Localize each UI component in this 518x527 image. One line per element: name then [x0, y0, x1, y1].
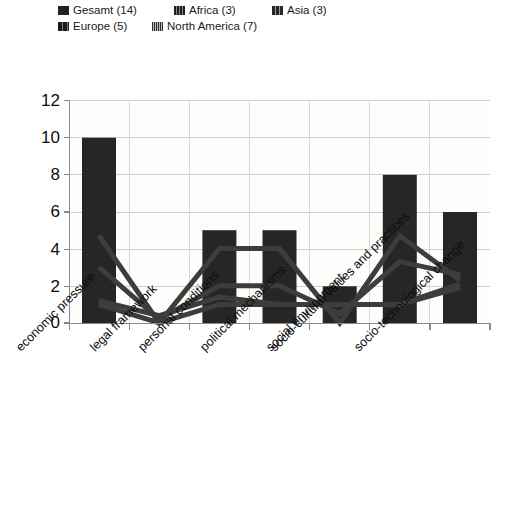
bar-economic-pressure [82, 138, 116, 323]
chart-canvas: 12 10 8 6 4 2 0 [0, 0, 518, 527]
bar-socio-technological-change [443, 212, 477, 323]
